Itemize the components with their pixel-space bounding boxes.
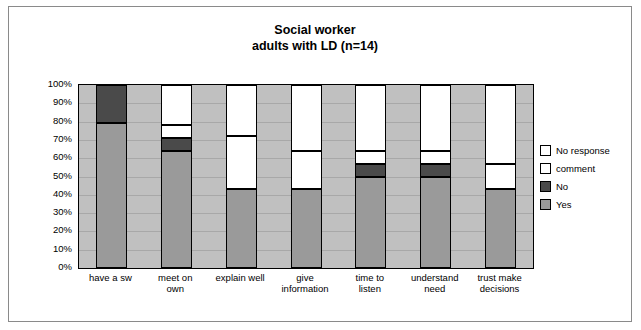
bar-segment bbox=[485, 189, 516, 268]
bars-layer bbox=[79, 85, 533, 268]
x-axis-tick-label-line: time to bbox=[337, 272, 402, 283]
bar-group bbox=[161, 85, 192, 268]
y-axis-labels: 100%90%80%70%60%50%40%30%20%10%0% bbox=[38, 76, 72, 276]
x-axis-tick-label: trust makedecisions bbox=[467, 272, 532, 294]
bar-group bbox=[96, 85, 127, 268]
y-axis-tick-label: 40% bbox=[38, 189, 72, 199]
bar-segment bbox=[420, 177, 451, 269]
y-axis-tick-label: 30% bbox=[38, 207, 72, 217]
bar-segment bbox=[355, 151, 386, 164]
bar-group bbox=[420, 85, 451, 268]
bar-segment bbox=[291, 151, 322, 189]
bar-segment bbox=[161, 85, 192, 125]
bar-segment bbox=[355, 164, 386, 177]
bar-group bbox=[291, 85, 322, 268]
bar-segment bbox=[161, 138, 192, 151]
bar-segment bbox=[485, 85, 516, 164]
x-axis-tick-label-line: trust make bbox=[467, 272, 532, 283]
bar-group bbox=[226, 85, 257, 268]
chart-legend: No responsecommentNoYes bbox=[540, 142, 632, 214]
chart-title-line-1: Social worker bbox=[150, 22, 480, 38]
x-axis-tick-label: explain well bbox=[208, 272, 273, 283]
bar-segment bbox=[96, 123, 127, 268]
legend-item: No bbox=[540, 178, 632, 194]
y-axis-tick-label: 80% bbox=[38, 116, 72, 126]
chart-container: Social worker adults with LD (n=14) 100%… bbox=[0, 0, 641, 330]
legend-item: Yes bbox=[540, 196, 632, 212]
legend-item: No response bbox=[540, 142, 632, 158]
bar-group bbox=[355, 85, 386, 268]
y-axis-tick-label: 60% bbox=[38, 152, 72, 162]
x-axis-tick-label: giveinformation bbox=[273, 272, 338, 294]
bar-segment bbox=[161, 125, 192, 138]
x-axis-tick-label: meet onown bbox=[143, 272, 208, 294]
legend-label: No bbox=[556, 181, 568, 192]
x-axis-tick-label-line: need bbox=[402, 283, 467, 294]
bar-segment bbox=[291, 85, 322, 151]
bar-segment bbox=[355, 85, 386, 151]
y-axis-tick-label: 50% bbox=[38, 171, 72, 181]
x-axis-tick-label-line: listen bbox=[337, 283, 402, 294]
chart-title-line-2: adults with LD (n=14) bbox=[150, 38, 480, 54]
y-axis-tick-label: 90% bbox=[38, 97, 72, 107]
bar-segment bbox=[161, 151, 192, 268]
y-axis-tick-label: 100% bbox=[38, 79, 72, 89]
x-axis-tick-label-line: own bbox=[143, 283, 208, 294]
bar-segment bbox=[226, 189, 257, 268]
bar-segment bbox=[420, 85, 451, 151]
legend-swatch bbox=[540, 145, 551, 156]
legend-swatch bbox=[540, 163, 551, 174]
x-axis-tick-label: have a sw bbox=[78, 272, 143, 283]
x-axis-tick-label-line: meet on bbox=[143, 272, 208, 283]
chart-title: Social worker adults with LD (n=14) bbox=[150, 22, 480, 54]
x-axis-tick-label-line: explain well bbox=[208, 272, 273, 283]
x-axis-tick-label-line: give bbox=[273, 272, 338, 283]
x-axis-tick-label-line: have a sw bbox=[78, 272, 143, 283]
legend-swatch bbox=[540, 199, 551, 210]
y-axis-tick-label: 70% bbox=[38, 134, 72, 144]
y-axis-tick-label: 20% bbox=[38, 225, 72, 235]
bar-segment bbox=[420, 164, 451, 177]
y-axis-tick-label: 10% bbox=[38, 244, 72, 254]
bar-segment bbox=[226, 136, 257, 189]
bar-segment bbox=[226, 85, 257, 136]
legend-label: comment bbox=[556, 163, 595, 174]
legend-swatch bbox=[540, 181, 551, 192]
legend-label: No response bbox=[556, 145, 610, 156]
x-axis-tick-label-line: understand bbox=[402, 272, 467, 283]
x-axis-tick-label-line: information bbox=[273, 283, 338, 294]
legend-label: Yes bbox=[556, 199, 572, 210]
bar-segment bbox=[420, 151, 451, 164]
x-axis-tick-label-line: decisions bbox=[467, 283, 532, 294]
x-axis-labels: have a swmeet onownexplain wellgiveinfor… bbox=[78, 272, 534, 314]
bar-group bbox=[485, 85, 516, 268]
legend-item: comment bbox=[540, 160, 632, 176]
plot-area bbox=[78, 84, 534, 269]
bar-segment bbox=[485, 164, 516, 190]
x-axis-tick-label: time tolisten bbox=[337, 272, 402, 294]
bar-segment bbox=[96, 85, 127, 123]
x-axis-tick-label: understandneed bbox=[402, 272, 467, 294]
bar-segment bbox=[355, 177, 386, 269]
bar-segment bbox=[291, 189, 322, 268]
y-axis-tick-label: 0% bbox=[38, 262, 72, 272]
